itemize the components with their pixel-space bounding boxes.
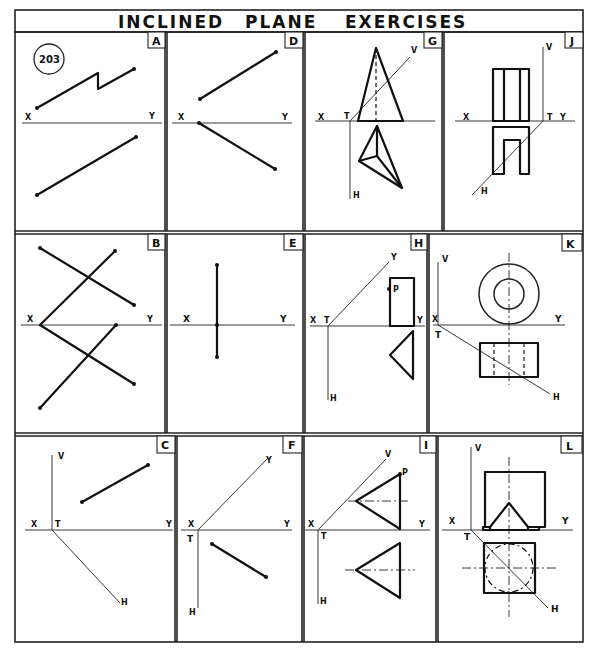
h-label: H xyxy=(481,187,488,196)
y-label: Y xyxy=(281,113,288,122)
line-elevation xyxy=(82,465,148,502)
x-label: X xyxy=(25,113,32,122)
panel-f: F X Y Y T H xyxy=(181,436,302,617)
title-word-inclined: INCLINED xyxy=(118,12,224,32)
x-label: X xyxy=(188,520,195,529)
y-label: Y xyxy=(554,314,562,324)
x-label: X xyxy=(318,113,325,122)
panel-i-label: I xyxy=(424,439,428,452)
panel-k-label: K xyxy=(566,238,575,251)
v-label: V xyxy=(546,43,553,52)
y-label: Y xyxy=(418,520,425,529)
horizontal-trace xyxy=(471,530,548,608)
horizontal-trace xyxy=(52,530,120,603)
h-label: H xyxy=(121,598,128,607)
panel-k: K X Y V T H xyxy=(432,234,582,402)
x-label: X xyxy=(31,520,38,529)
x-label: X xyxy=(308,520,315,529)
t-label: T xyxy=(435,330,442,340)
v-label: V xyxy=(411,46,418,55)
v-trace-label: Y xyxy=(390,253,397,262)
panel-b: B X Y xyxy=(21,234,165,410)
cone-plan xyxy=(356,543,400,598)
panel-j-label: J xyxy=(569,35,574,48)
panel-g-label: G xyxy=(428,35,437,48)
p-label: P xyxy=(393,285,399,294)
v-label: V xyxy=(58,452,65,461)
h-label: H xyxy=(353,191,360,200)
panel-f-label: F xyxy=(288,439,296,452)
elevation-line xyxy=(37,69,134,108)
vertical-trace xyxy=(350,57,410,121)
x-label: X xyxy=(183,314,190,324)
h-label: H xyxy=(330,394,337,403)
panel-h-label: H xyxy=(414,237,423,250)
exercise-number: 203 xyxy=(39,54,60,65)
block-elevation xyxy=(493,69,529,121)
panel-d-label: D xyxy=(289,35,298,48)
t-label: T xyxy=(324,316,330,325)
cone-elevation xyxy=(356,474,400,529)
y-label: Y xyxy=(561,516,569,526)
grid-frame xyxy=(15,32,583,642)
panel-g: G X T V H xyxy=(315,32,442,200)
v-trace-label: Y xyxy=(265,456,272,465)
v-label: V xyxy=(475,444,482,453)
t-label: T xyxy=(547,113,553,122)
horizontal-trace xyxy=(472,121,543,195)
panel-i: I X Y V T H P xyxy=(305,436,436,606)
panel-e: E X Y xyxy=(170,234,303,359)
title-word-exercises: EXERCISES xyxy=(345,12,467,32)
y-label: Y xyxy=(279,314,287,324)
panel-c: C X T Y V H xyxy=(25,436,175,607)
t-label: T xyxy=(344,112,350,121)
h-label: H xyxy=(553,393,560,402)
panel-a: A 203 X Y xyxy=(22,32,165,197)
inclined-plane-exercise-sheet: INCLINED PLANE EXERCISES A xyxy=(0,0,591,648)
y-label: Y xyxy=(559,113,566,122)
x-label: X xyxy=(449,517,456,526)
panel-c-label: C xyxy=(161,439,169,452)
t-label: T xyxy=(464,532,471,542)
y-label: Y xyxy=(283,520,290,529)
v-label: V xyxy=(442,255,449,264)
panel-j: J X T Y V H xyxy=(455,32,583,196)
x-label: X xyxy=(178,113,185,122)
elevation-line xyxy=(200,52,276,99)
prism-plan xyxy=(390,331,413,379)
panel-d: D X Y xyxy=(172,32,303,171)
plan-line xyxy=(199,123,275,169)
vertical-trace xyxy=(328,262,389,326)
point-p xyxy=(387,287,391,291)
vertical-trace xyxy=(198,458,268,530)
h-label: H xyxy=(551,604,559,614)
y-label: Y xyxy=(146,315,153,324)
block-elevation xyxy=(483,472,545,530)
panel-h: H X T Y Y H P xyxy=(310,234,427,403)
h-label: H xyxy=(320,597,327,606)
v-label: V xyxy=(385,450,392,459)
x-label: X xyxy=(27,315,34,324)
plan-line xyxy=(37,137,136,195)
t-label: T xyxy=(321,532,327,541)
y-label: Y xyxy=(165,520,172,529)
t-label: T xyxy=(187,534,194,544)
y-label: Y xyxy=(416,316,423,325)
panel-b-label: B xyxy=(152,237,160,250)
panel-l-label: L xyxy=(566,440,573,453)
t-label: T xyxy=(55,520,61,529)
y-label: Y xyxy=(148,112,155,121)
line-plan xyxy=(212,544,266,577)
title-word-plane: PLANE xyxy=(245,12,317,32)
h-label: H xyxy=(189,608,196,617)
x-label: X xyxy=(310,316,317,325)
x-label: X xyxy=(463,113,470,122)
panel-e-label: E xyxy=(289,237,297,250)
panel-l: L X Y V T H xyxy=(442,436,582,617)
pyramid-elevation xyxy=(358,48,403,121)
vertical-trace xyxy=(318,459,386,530)
panel-a-label: A xyxy=(152,35,161,48)
p-label: P xyxy=(402,468,408,477)
